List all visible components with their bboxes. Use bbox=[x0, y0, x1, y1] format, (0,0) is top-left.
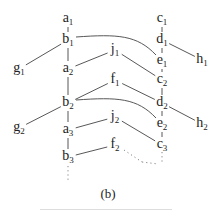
dotted-f2-continuation bbox=[124, 150, 142, 162]
node-h1: h1 bbox=[196, 52, 208, 68]
node-e2: e2 bbox=[157, 116, 168, 132]
node-subscript: 3 bbox=[69, 155, 74, 165]
node-g1: g1 bbox=[13, 61, 25, 77]
node-d2: d2 bbox=[156, 95, 168, 111]
node-f1: f1 bbox=[110, 72, 119, 88]
node-b3: b3 bbox=[62, 149, 74, 165]
node-letter: b bbox=[62, 148, 69, 163]
node-letter: g bbox=[13, 119, 20, 134]
node-subscript: 1 bbox=[115, 78, 120, 88]
node-a1: a1 bbox=[63, 11, 74, 27]
node-subscript: 2 bbox=[69, 101, 74, 111]
edge-b2-f1 bbox=[75, 84, 108, 100]
node-j2: j2 bbox=[111, 109, 119, 125]
node-letter: b bbox=[62, 94, 69, 109]
node-a2: a2 bbox=[63, 61, 74, 77]
node-subscript: 2 bbox=[163, 101, 168, 111]
node-subscript: 1 bbox=[163, 17, 168, 27]
node-b1: b1 bbox=[62, 32, 74, 48]
node-subscript: 3 bbox=[163, 143, 168, 153]
node-subscript: 2 bbox=[20, 126, 25, 136]
edge-d1-h1 bbox=[169, 44, 195, 57]
node-subscript: 1 bbox=[69, 17, 74, 27]
node-d1: d1 bbox=[156, 32, 168, 48]
node-letter: d bbox=[156, 94, 163, 109]
node-letter: d bbox=[156, 31, 163, 46]
node-subscript: 2 bbox=[203, 122, 208, 132]
edge-b2-g2 bbox=[26, 107, 61, 125]
edge-f1-d2 bbox=[122, 84, 155, 100]
node-j1: j1 bbox=[111, 42, 119, 58]
node-subscript: 1 bbox=[20, 67, 25, 77]
node-a3: a3 bbox=[63, 122, 74, 138]
dotted-f2-c3-link bbox=[142, 162, 158, 164]
bottom-rule bbox=[40, 209, 172, 210]
node-subscript: 2 bbox=[115, 143, 120, 153]
edge-a2-j1 bbox=[75, 53, 107, 66]
edge-a3-j2 bbox=[76, 119, 108, 128]
node-b2: b2 bbox=[62, 95, 74, 111]
node-c2: c2 bbox=[157, 72, 168, 88]
edge-b3-f2 bbox=[76, 147, 107, 155]
edge-j2-c3 bbox=[122, 121, 155, 141]
figure-caption: (b) bbox=[100, 186, 115, 202]
edge-j1-c2 bbox=[122, 54, 156, 75]
node-subscript: 2 bbox=[69, 67, 74, 77]
diagram-root: a1b1g1a2j1f1b2g2a3j2f2b3c1d1h1e1c2d2h2e2… bbox=[0, 0, 216, 213]
node-subscript: 1 bbox=[69, 38, 74, 48]
node-e1: e1 bbox=[157, 53, 168, 69]
node-f2: f2 bbox=[110, 137, 119, 153]
node-letter: h bbox=[196, 115, 203, 130]
node-c3: c3 bbox=[157, 137, 168, 153]
node-subscript: 1 bbox=[163, 59, 168, 69]
node-subscript: 2 bbox=[163, 78, 168, 88]
node-letter: b bbox=[62, 31, 69, 46]
edge-b1-g1 bbox=[26, 44, 61, 65]
node-subscript: 1 bbox=[203, 58, 208, 68]
node-g2: g2 bbox=[13, 120, 25, 136]
node-letter: g bbox=[13, 60, 20, 75]
node-subscript: 2 bbox=[163, 122, 168, 132]
node-subscript: 3 bbox=[69, 128, 74, 138]
edge-d2-h2 bbox=[169, 107, 195, 121]
node-letter: h bbox=[196, 51, 203, 66]
node-subscript: 1 bbox=[163, 38, 168, 48]
node-c1: c1 bbox=[157, 11, 168, 27]
node-h2: h2 bbox=[196, 116, 208, 132]
node-subscript: 1 bbox=[115, 48, 120, 58]
graph-edges bbox=[0, 0, 216, 213]
node-subscript: 2 bbox=[115, 115, 120, 125]
